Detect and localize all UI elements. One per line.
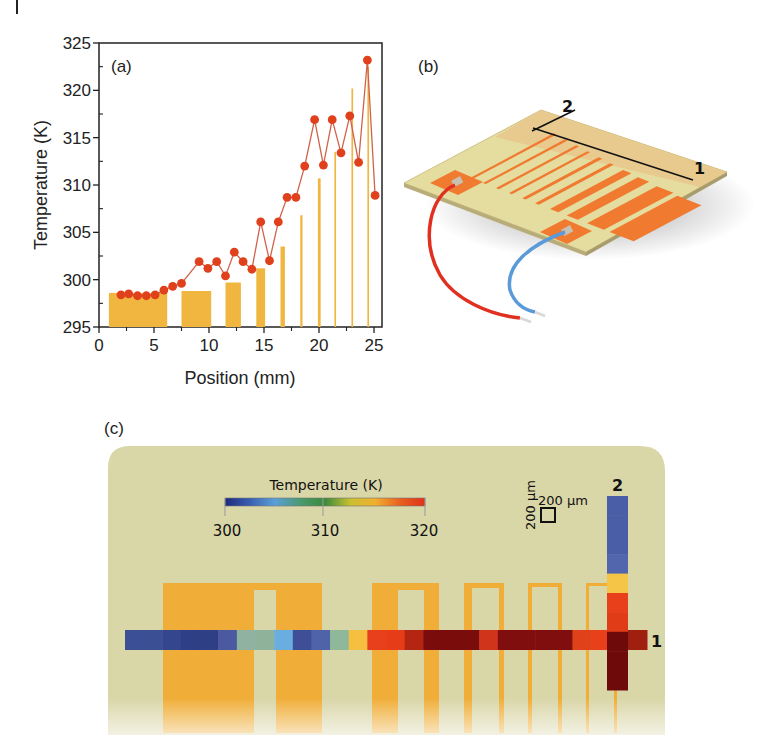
data-point bbox=[256, 218, 265, 227]
temperature-cell bbox=[517, 630, 536, 650]
temperature-cell bbox=[554, 630, 573, 650]
temperature-cell bbox=[607, 671, 628, 691]
temperature-cell bbox=[498, 630, 517, 650]
data-point bbox=[221, 271, 230, 280]
data-point bbox=[363, 56, 372, 65]
panel-a-label: (a) bbox=[111, 57, 132, 76]
temperature-cell bbox=[181, 630, 200, 650]
temperature-cell bbox=[405, 630, 424, 650]
x-axis-ticks: 0510152025 bbox=[94, 327, 383, 355]
y-tick-label: 295 bbox=[63, 318, 91, 337]
panel-c-label: (c) bbox=[104, 419, 124, 438]
temperature-cell bbox=[293, 630, 312, 650]
data-point bbox=[310, 115, 319, 124]
y-axis-label: Temperature (K) bbox=[31, 120, 51, 250]
temperature-cell bbox=[535, 630, 554, 650]
colorbar-tick-label: 300 bbox=[213, 522, 242, 540]
temperature-cell bbox=[386, 630, 405, 650]
panel-b-label: (b) bbox=[418, 57, 439, 76]
x-tick-label: 15 bbox=[255, 336, 274, 355]
colorbar-tick-label: 320 bbox=[410, 522, 439, 540]
colorbar-title: Temperature (K) bbox=[268, 477, 382, 493]
conductor-bar bbox=[281, 247, 285, 327]
x-axis-label: Position (mm) bbox=[184, 368, 295, 388]
data-point bbox=[345, 111, 354, 120]
line-2-label: 2 bbox=[562, 97, 573, 116]
data-point bbox=[283, 193, 292, 202]
temperature-cell bbox=[256, 630, 275, 650]
data-point bbox=[160, 286, 169, 295]
temperature-cell bbox=[628, 630, 647, 650]
temperature-cell bbox=[423, 630, 442, 650]
conductor-bar bbox=[300, 215, 302, 327]
temperature-cell bbox=[144, 630, 163, 650]
x-tick-label: 10 bbox=[200, 336, 219, 355]
temperature-cell bbox=[607, 496, 628, 516]
temperature-cell bbox=[162, 630, 181, 650]
x-tick-label: 20 bbox=[310, 336, 329, 355]
data-point bbox=[319, 161, 328, 170]
line-1-label: 1 bbox=[694, 159, 705, 178]
line-1-temperature-cells bbox=[125, 630, 648, 650]
bottom-fade bbox=[100, 698, 680, 752]
data-point bbox=[142, 291, 151, 300]
conductor-bar bbox=[182, 291, 212, 327]
temperature-cell bbox=[218, 630, 237, 650]
data-point bbox=[230, 248, 239, 257]
y-tick-label: 320 bbox=[63, 81, 91, 100]
scale-bar-horizontal-label: 200 µm bbox=[538, 493, 588, 508]
conductor-bar bbox=[256, 268, 265, 327]
colorbar-tick-label: 310 bbox=[311, 522, 340, 540]
temperature-cell bbox=[125, 630, 144, 650]
panel-c-thermal-map: (c) 1 2 Temperature (K) 30 bbox=[100, 419, 680, 752]
temperature-cell bbox=[607, 632, 628, 652]
data-point bbox=[300, 162, 309, 171]
conductor-bar bbox=[367, 67, 369, 327]
temperature-cell bbox=[607, 612, 628, 632]
data-point bbox=[371, 191, 380, 200]
red-wire-tip bbox=[520, 318, 531, 322]
x-tick-label: 25 bbox=[365, 336, 384, 355]
conductor-bar bbox=[318, 178, 321, 327]
temperature-cell bbox=[607, 554, 628, 574]
conductor-bar bbox=[334, 152, 336, 327]
temperature-cell bbox=[311, 630, 330, 650]
line-2-label: 2 bbox=[612, 476, 623, 495]
temperature-cell bbox=[237, 630, 256, 650]
panel-b-device-illustration: (b) 2 1 bbox=[404, 57, 755, 322]
y-tick-label: 325 bbox=[63, 34, 91, 53]
data-point bbox=[354, 158, 363, 167]
y-tick-label: 315 bbox=[63, 129, 91, 148]
data-point bbox=[133, 291, 142, 300]
data-point bbox=[274, 218, 283, 227]
trace-loop-top bbox=[528, 583, 562, 587]
temperature-cell bbox=[479, 630, 498, 650]
blue-wire-tip bbox=[535, 312, 545, 316]
data-point bbox=[177, 279, 186, 288]
temperature-cell bbox=[367, 630, 386, 650]
temperature-cell bbox=[572, 630, 591, 650]
temperature-cell bbox=[330, 630, 349, 650]
data-point bbox=[204, 264, 213, 273]
temperature-cell bbox=[442, 630, 461, 650]
y-axis-ticks: 295300305310315320325 bbox=[63, 34, 103, 337]
y-tick-label: 310 bbox=[63, 176, 91, 195]
x-tick-label: 5 bbox=[149, 336, 158, 355]
temperature-cell bbox=[461, 630, 480, 650]
temperature-cell bbox=[607, 515, 628, 535]
temperature-cell bbox=[607, 574, 628, 594]
data-point bbox=[212, 257, 221, 266]
temperature-cell bbox=[349, 630, 368, 650]
colorbar bbox=[225, 498, 425, 506]
y-tick-label: 300 bbox=[63, 271, 91, 290]
line-1-label: 1 bbox=[651, 632, 662, 651]
data-point bbox=[151, 290, 160, 299]
data-point bbox=[117, 290, 126, 299]
x-tick-label: 0 bbox=[94, 336, 103, 355]
temperature-cell bbox=[607, 593, 628, 613]
data-point bbox=[248, 265, 257, 274]
data-point bbox=[292, 193, 301, 202]
data-point bbox=[239, 257, 248, 266]
panel-a-chart: 295300305310315320325 0510152025 (a) Pos… bbox=[31, 34, 383, 388]
temperature-cell bbox=[607, 651, 628, 671]
